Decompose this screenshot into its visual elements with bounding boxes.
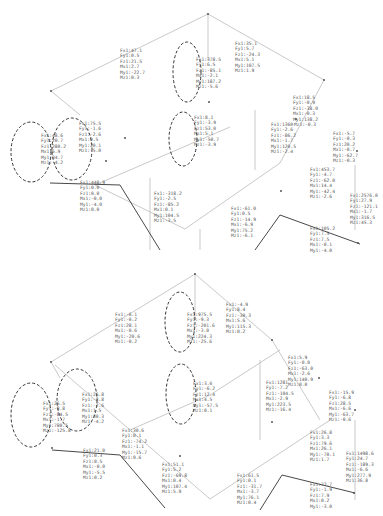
force-label-t15: Fx1:105.2Fy1:7.5Fz1:7.5Mx1:-0.1My1:-4.0 (310, 226, 335, 253)
force-label-b15: Fx1:1498.6Fy1:24.7Fz1:-189.3Mx1:-6.6My1:… (346, 451, 374, 483)
label-line: Mz1:-0.3 (333, 158, 358, 163)
label-line: Mx1:14.4 (310, 183, 335, 188)
node (194, 273, 196, 275)
node (354, 409, 356, 411)
label-line: Mz1:0.3 (120, 75, 145, 80)
force-label-b11: Fx1:21.0Fy1:0.3Fz1:0.5Mx1:-0.0My1:-5.5Mz… (83, 448, 105, 480)
label-line: Mz1:0.4 (237, 500, 262, 505)
force-label-t7: Fx1:18.5Fy1:-0.9Fz1:-38.0Mx1:-0.3My1:138… (293, 95, 318, 122)
force-label-t1: Fx1:47.1Fy1:0.5Fz1:21.5Mx1:2.7My1:-22.7M… (120, 48, 145, 80)
label-line: Mz1:1.9 (235, 68, 260, 73)
force-label-b2: Fx1:975.5Fy1:-9.3Fz1:-201.6Mx1:-3.0My1:2… (187, 312, 215, 344)
force-label-b10: Fx1:30.6Fy1:0.1Fz1:-74.2Mx1:-1.1My1:-15.… (122, 428, 147, 460)
label-line: Mz1:5.9 (162, 489, 187, 494)
force-label-t11: Fx1:-318.2Fy1:-2.5Fz1:-85.2Mx1:0.1My1:10… (154, 191, 182, 223)
label-line: Mx1:-1.1 (122, 444, 147, 449)
node (208, 101, 210, 103)
label-line: Mz1:-5.0 (79, 148, 101, 153)
node (51, 447, 53, 449)
node (271, 421, 273, 423)
dark-member (52, 450, 165, 508)
frame-member (130, 420, 330, 499)
label-line: Mz1:-16.4 (266, 407, 294, 412)
force-label-b8: Fx1:1281Fy1:-7.2Fz1:-104.5Mx1:-2.9My1:22… (266, 380, 294, 412)
force-label-t14: Fx1:2576.0Fy1:27.9Fz1:-121.1Mx1:-1.7My1:… (350, 193, 378, 225)
label-line: Mz1:0.2 (83, 475, 105, 480)
label-line: Mz1:-4.2 (82, 419, 104, 424)
force-label-b16: Fx1:72.7Fy1:-1.9Fz1:7.9Mx1:0.2My1:-3.0 (310, 482, 332, 509)
label-line: Mz1:-5.6 (196, 84, 221, 89)
label-line: Mx1:-3.7 (237, 489, 262, 494)
frame-member (51, 362, 60, 378)
node (179, 455, 181, 457)
force-label-b4: Fx1:26.8Fy1:-3.8Fz1:-2.6Mx1:1.5My1:30.3M… (82, 392, 104, 424)
force-label-b14: Fx1:61.5Fy1:0.1Fz1:-31.7Mx1:-3.7My1:76.1… (237, 473, 262, 505)
label-line: Mx1:-6.6 (329, 406, 354, 411)
frame-member (51, 91, 80, 115)
label-line: Mx1:-0.6 (115, 328, 140, 333)
force-label-b13: Fx1:26.8Fy1:3.3Fz1:79.6Mx1:26.1My1:-70.1… (310, 430, 335, 462)
dark-member (50, 183, 160, 250)
label-line: Mz1:0.1 (193, 408, 218, 413)
dark-member (260, 475, 282, 510)
label-line: Mz1:0.2 (226, 329, 251, 334)
node (207, 13, 209, 15)
label-line: Mz1:-6.1 (231, 233, 256, 238)
node (280, 190, 282, 192)
force-label-t4: Fx1:75.5Fy1:-1.6Fz1:-2.6Mx1:0.5My1:20.1M… (79, 121, 101, 153)
label-line: Mz1:-2.4 (271, 149, 296, 154)
force-label-b6: Fx1:3.6Fy1:-6.2Fz1:12.4Mx1:4.5My1:-57.5M… (193, 381, 218, 413)
label-line: Mz1:-0.2 (115, 339, 140, 344)
label-line: Mz1:-2.6 (310, 194, 335, 199)
node (50, 361, 52, 363)
force-label-t9: Fx1:-5.7Fy1:-0.3Fz1:20.2Mx1:-0.7My1:-62.… (333, 131, 358, 163)
label-line: Mz1:-4.2 (41, 160, 66, 165)
force-label-b9: Fx1:-15.9Fy1:-6.8Fz1:28.5Mx1:-6.6My1:-63… (329, 390, 354, 422)
force-label-t10: Fx1:440.9Fy1:0.0Fz1:0.0Mx1:-0.0My1:-4.0M… (80, 180, 105, 212)
label-line: Mz1:0.0 (80, 207, 105, 212)
force-label-t2: Fx1:378.5Fy1:6.5Fz1:-85.1Mx1:-2.1My1:187… (196, 57, 221, 89)
label-line: Mx1:-0.0 (83, 464, 105, 469)
force-label-b12: Fx1:51.1Fy1:5.2Fz1:-69.8Mx1:0.4My1:107.4… (162, 462, 187, 494)
node (271, 339, 273, 341)
frame-member (51, 14, 324, 91)
node (357, 242, 359, 244)
node (50, 90, 52, 92)
force-label-b1: Fx1:-6.1Fy1:-0.2Fz1:28.1Mx1:-0.6My1:-20.… (115, 312, 140, 344)
label-line: Mx1:-2.1 (196, 73, 221, 78)
label-line: Mx1:-0.7 (333, 147, 358, 152)
label-line: Mx1:-6.9 (231, 222, 256, 227)
label-line: Mz1:-125.8 (43, 428, 71, 433)
highlight-ellipse (166, 364, 196, 424)
node (105, 160, 107, 162)
node (124, 137, 126, 139)
label-line: Mx1:0.2 (310, 498, 332, 503)
label-line: Mx1:1.5 (82, 408, 104, 413)
label-line: Mx1:-2.6 (288, 371, 313, 376)
force-label-t5: Fx1:48.6Fy1:20.7Fz1:280.2Mx1:6.9My1:34.7… (41, 133, 66, 165)
label-line: Mz1:-3.9 (194, 142, 219, 147)
dark-member (255, 215, 280, 250)
label-line: Mz1:-3.5 (154, 218, 182, 223)
force-label-t8b: Mz1:-0.3 (294, 122, 316, 127)
label-line: Mx1:-0.0 (80, 196, 105, 201)
label-line: Mz1:-0.3 (294, 122, 316, 127)
label-line: My1:-3.0 (310, 504, 332, 509)
label-line: Mz1:0.6 (122, 455, 147, 460)
force-label-t8: Fx1:1360Fy1:-2.6Fz1:-86.2Mx1:-1.7My1:120… (271, 122, 296, 154)
label-line: My1:-4.0 (310, 248, 335, 253)
label-line: Mz1:36.8 (346, 478, 374, 483)
force-label-t6: Fx1:8.1Fy1:-3.9Fz1:53.0Mx1:5.1My1:-50.7M… (194, 115, 219, 147)
force-label-b5: Fx1:26.5Fy1:-8.8Fz1:-84.5Mx1:-1.7My1:780… (43, 401, 71, 433)
label-line: Mz1:-0.6 (329, 417, 354, 422)
node (323, 79, 325, 81)
force-label-t12: Fx1:453.7Fy1:-4.7Fz1:-62.0Mx1:14.4My1:-4… (310, 167, 335, 199)
node (353, 492, 355, 494)
label-line: Mz1:1.7 (310, 457, 335, 462)
force-label-t13: Fx1:-61.0Fy1:0.5Fz1:-14.9Mx1:-6.9My1:75.… (231, 206, 256, 238)
label-line: Mx1:-0.3 (293, 111, 318, 116)
force-label-t3: Fx1:35.1Fy1:5.7Fz1:-24.3Mx1:5.1My1:107.5… (235, 41, 260, 73)
label-line: Mx1:-1.7 (271, 138, 296, 143)
label-line: Mx1:-0.1 (310, 242, 335, 247)
label-line: Mz1:45.3 (350, 220, 378, 225)
